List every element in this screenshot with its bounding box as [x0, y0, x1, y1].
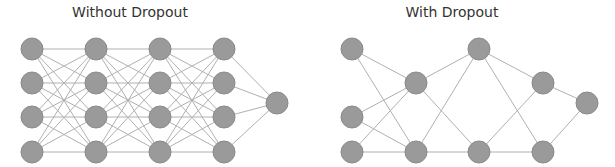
connection-edge: [479, 49, 543, 152]
neuron-node: [85, 106, 107, 128]
neuron-node: [149, 106, 171, 128]
neuron-node: [341, 106, 363, 128]
neuron-node: [149, 38, 171, 60]
neuron-node: [468, 38, 490, 60]
neuron-node: [21, 38, 43, 60]
connection-edge: [479, 83, 543, 152]
neuron-node: [21, 141, 43, 163]
neuron-node: [149, 72, 171, 94]
neuron-node: [213, 141, 235, 163]
neuron-node: [213, 106, 235, 128]
neuron-node: [576, 92, 598, 114]
full-network: [21, 38, 288, 163]
dropout-network: [341, 38, 598, 163]
neuron-node: [85, 72, 107, 94]
neuron-node: [213, 72, 235, 94]
neuron-node: [341, 38, 363, 60]
neuron-node: [468, 141, 490, 163]
neuron-node: [405, 141, 427, 163]
neuron-node: [21, 106, 43, 128]
neuron-node: [21, 72, 43, 94]
connection-edge: [416, 83, 479, 152]
connection-edge: [416, 49, 479, 152]
neural-network-diagram: [0, 0, 615, 167]
neuron-node: [85, 38, 107, 60]
neuron-node: [213, 38, 235, 60]
neuron-node: [149, 141, 171, 163]
neuron-node: [266, 92, 288, 114]
neuron-node: [532, 141, 554, 163]
neuron-node: [405, 72, 427, 94]
neuron-node: [341, 141, 363, 163]
neuron-node: [532, 72, 554, 94]
neuron-node: [85, 141, 107, 163]
